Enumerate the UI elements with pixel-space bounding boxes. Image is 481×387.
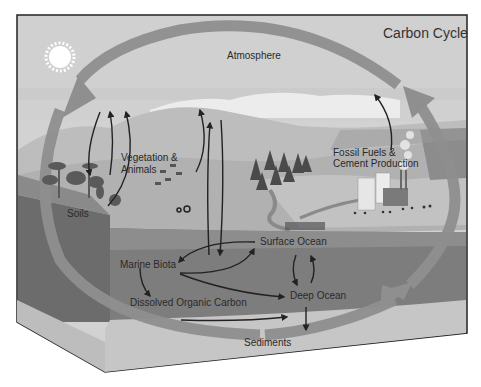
label-surface-ocean: Surface Ocean: [260, 236, 327, 247]
carbon-cycle-diagram: Carbon Cycle Atmosphere Vegetation & Ani…: [0, 0, 481, 387]
diagram-title: Carbon Cycle: [383, 25, 468, 41]
label-soils: Soils: [67, 208, 89, 219]
label-vegetation-line1: Vegetation &: [121, 152, 178, 163]
people-icon: [285, 222, 325, 230]
label-atmosphere: Atmosphere: [227, 50, 281, 61]
label-vegetation-line2: Animals: [121, 164, 157, 175]
label-fossil-fuels-line2: Cement Production: [333, 158, 419, 169]
label-dissolved-organic-carbon: Dissolved Organic Carbon: [130, 297, 247, 308]
label-deep-ocean: Deep Ocean: [290, 290, 346, 301]
label-marine-biota: Marine Biota: [120, 259, 176, 270]
label-fossil-fuels-line1: Fossil Fuels &: [333, 147, 396, 158]
label-sediments: Sediments: [244, 337, 291, 348]
